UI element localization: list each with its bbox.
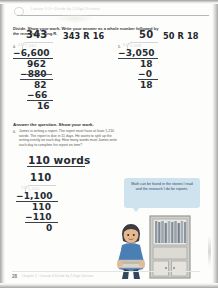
worksheet-page: Lesson 9.3 • Divide by 2-Digit Divisors … <box>0 0 218 288</box>
problem-6-work: 11 1,210 110 −1,100 110 −110 0 <box>16 152 111 222</box>
problem-4-remainder: 16 <box>37 101 50 111</box>
problem-5-step-1: −3,050 <box>118 48 155 58</box>
problem-5-step-3: −0 <box>138 69 152 79</box>
scan-spine-shadow <box>208 236 211 266</box>
scan-edge-right <box>212 0 218 288</box>
footer-rule <box>12 271 200 272</box>
problem-4-step-1: −6,600 <box>13 48 50 58</box>
problem-6-text: James is writing a report. The report mu… <box>19 129 122 147</box>
header-rule <box>17 15 209 16</box>
problem-6-quotient: 110 <box>30 172 51 183</box>
bookshelf-icon <box>150 216 190 278</box>
problem-5-step-2: 18 <box>140 59 153 69</box>
scan-smudge <box>56 14 94 23</box>
problem-6-result: 0 <box>46 223 52 233</box>
problem-4-step-2: 962 <box>27 59 46 69</box>
problem-4-dividend: 7,562 <box>25 44 37 48</box>
illustration-boy-and-bookshelf <box>116 208 212 280</box>
problem-5-quotient: 50 <box>139 29 153 40</box>
problem-6-number: 6. <box>13 130 16 134</box>
problem-4-answer: 343 R 16 <box>63 31 104 41</box>
header-ghost-text: Lesson 9.3 • Divide by 2-Digit Divisors <box>31 7 100 11</box>
page-number: 28 <box>12 274 17 279</box>
problem-6-dividend: 1,210 <box>28 187 40 191</box>
problem-4-strikethrough <box>27 74 52 75</box>
problem-6-step-3: −110 <box>25 212 52 222</box>
problem-6-step-2: 110 <box>32 202 51 212</box>
speech-bubble-text: Math can be found in the stories I read … <box>128 182 196 192</box>
scan-edge-left <box>0 0 5 288</box>
problem-4-step-5: −66 <box>27 90 47 100</box>
scan-edge-bottom <box>0 283 218 288</box>
problem-5-answer: 50 R 18 <box>163 31 199 41</box>
problem-6-rule-2 <box>25 222 58 223</box>
problem-5-remainder: 18 <box>140 80 153 90</box>
problem-4-step-4: 82 <box>34 80 47 90</box>
footer-chapter-note: Chapter 2 • Lesson 6 Divide by 2-Digit D… <box>22 274 94 278</box>
page-header: Lesson 9.3 • Divide by 2-Digit Divisors <box>7 4 211 18</box>
problem-4-quotient: 343 <box>26 29 47 40</box>
answer-section-heading: Answer the question. Show your work. <box>13 122 94 127</box>
problem-6-step-1: −1,100 <box>16 191 53 201</box>
problem-5-dividend: 3,068 <box>130 44 142 48</box>
